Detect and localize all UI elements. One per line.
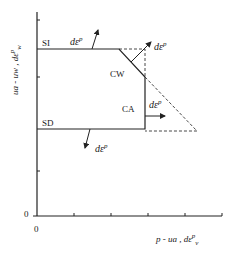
flow-label-si: dεp [70,35,82,47]
y-origin-label: 0 [24,209,29,219]
flow-label-cw: dεp [154,40,166,52]
x-origin-label: 0 [34,224,39,234]
label-sd: SD [42,118,54,128]
label-ca: CA [122,104,135,114]
flow-vector-si [92,30,98,49]
label-cw: CW [110,69,125,79]
yield-surface-diagram [0,0,236,253]
label-si: SI [42,38,50,48]
yield-surface [37,49,145,129]
flow-label-ca: dεp [149,98,161,110]
y-axis-label: ua - uw , dεpw [8,45,23,95]
x-axis-label: p - ua , dεpv [156,232,198,247]
flow-label-sd: dεp [95,142,107,154]
flow-vector-cw [131,42,151,62]
flow-vector-sd [85,129,90,148]
